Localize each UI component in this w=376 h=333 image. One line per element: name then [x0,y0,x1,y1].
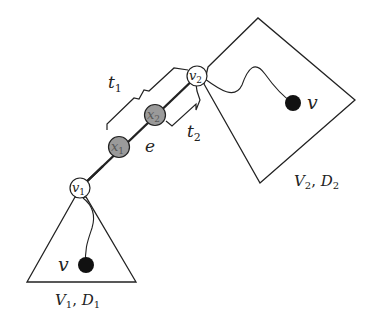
label-e: e [145,136,155,156]
label-v-top: v [307,91,318,113]
label-region-bottom: V1, D1 [55,291,100,310]
region-v2-d2 [204,18,355,183]
label-t2: t2 [187,121,201,144]
vertex-v-bottom [78,257,94,273]
tree-decomposition-diagram: v2 x2 x1 v1 e t1 t2 v v V2, D2 V1, D1 [0,0,376,333]
label-v-bottom: v [58,253,69,275]
path-v2-to-v [205,67,293,103]
label-region-top: V2, D2 [294,172,339,191]
vertex-v-top [285,95,301,111]
path-v1-to-v [83,198,94,265]
label-t1: t1 [108,72,122,95]
